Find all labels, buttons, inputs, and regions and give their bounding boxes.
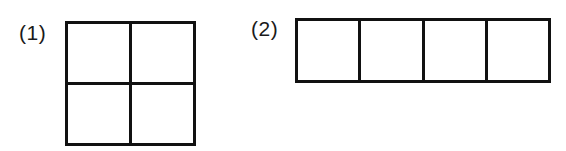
figure-1-cell-3	[68, 85, 129, 143]
figure-canvas: (1) (2)	[0, 0, 566, 151]
figure-1-label: (1)	[19, 22, 46, 43]
figure-2-cell-1	[298, 21, 358, 80]
figure-1-cell-4	[132, 85, 193, 143]
figure-2-cell-2	[361, 21, 421, 80]
figure-1-cell-1	[68, 24, 129, 82]
figure-1-cell-2	[132, 24, 193, 82]
figure-2-label: (2)	[251, 18, 278, 39]
figure-1-grid	[65, 21, 196, 146]
figure-2-cell-4	[488, 21, 548, 80]
figure-2-cell-3	[425, 21, 485, 80]
figure-2-grid	[295, 18, 551, 83]
